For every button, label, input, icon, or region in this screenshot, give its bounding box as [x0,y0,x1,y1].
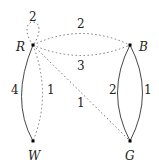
edge-r-w-left [22,45,34,141]
vertex-g [129,140,132,143]
weighted-multigraph: 2 2 3 4 1 1 2 1 R B W G [0,0,159,165]
vertex-label-g: G [125,149,135,163]
edge-r-w-right [33,45,43,141]
weight-r-w-right: 1 [47,83,55,97]
weight-r-loop: 2 [29,10,37,24]
weight-r-g-diagonal: 1 [77,96,85,110]
vertex-r [32,44,35,47]
weight-b-g-right: 1 [144,83,152,97]
vertex-b [129,44,132,47]
weight-b-g-left: 2 [109,83,117,97]
weight-r-b-upper: 2 [77,17,85,31]
vertex-label-w: W [28,149,42,163]
edge-r-loop [27,22,39,45]
weight-r-b-lower: 3 [77,59,85,73]
vertex-label-b: B [138,40,148,54]
edge-r-b-upper [33,34,130,46]
vertex-w [32,140,35,143]
vertex-label-r: R [15,40,25,54]
edge-b-g-left [118,45,131,141]
edge-b-g-right [130,45,143,141]
weight-r-w-left: 4 [11,83,19,97]
edge-r-b-lower [33,45,130,56]
